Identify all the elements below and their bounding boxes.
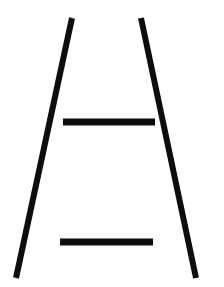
drawing-canvas: Letter A line drawing [0, 0, 224, 287]
letter-a-figure [0, 0, 224, 287]
